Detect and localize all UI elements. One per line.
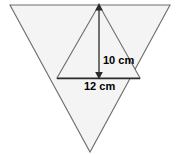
geometry-figure: 10 cm 12 cm [0, 0, 177, 155]
geometry-canvas [0, 0, 177, 155]
base-dimension-label: 12 cm [84, 80, 115, 92]
height-dimension-label: 10 cm [103, 54, 134, 66]
